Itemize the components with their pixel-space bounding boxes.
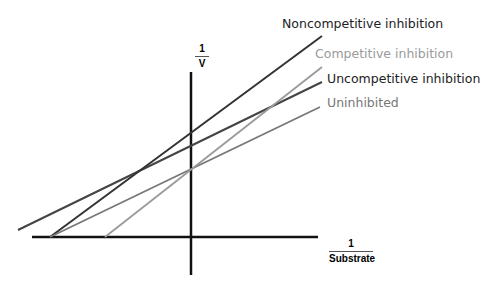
y-axis-numerator: 1 [195,44,209,57]
y-axis-denominator: V [195,57,209,69]
competitive-label: Competitive inhibition [315,48,453,61]
noncompetitive-line [50,36,322,237]
y-axis-label: 1 V [195,44,209,69]
competitive-line [105,67,322,237]
uncompetitive-label: Uncompetitive inhibition [327,73,480,86]
uninhibited-line [50,107,320,237]
x-axis-numerator: 1 [329,239,373,252]
x-axis-denominator: Substrate [329,252,373,264]
x-axis-label: 1 Substrate [329,239,373,264]
uncompetitive-line [18,82,322,230]
uninhibited-label: Uninhibited [327,97,399,110]
noncompetitive-label: Noncompetitive inhibition [282,18,443,31]
lineweaver-burk-diagram [0,0,482,288]
